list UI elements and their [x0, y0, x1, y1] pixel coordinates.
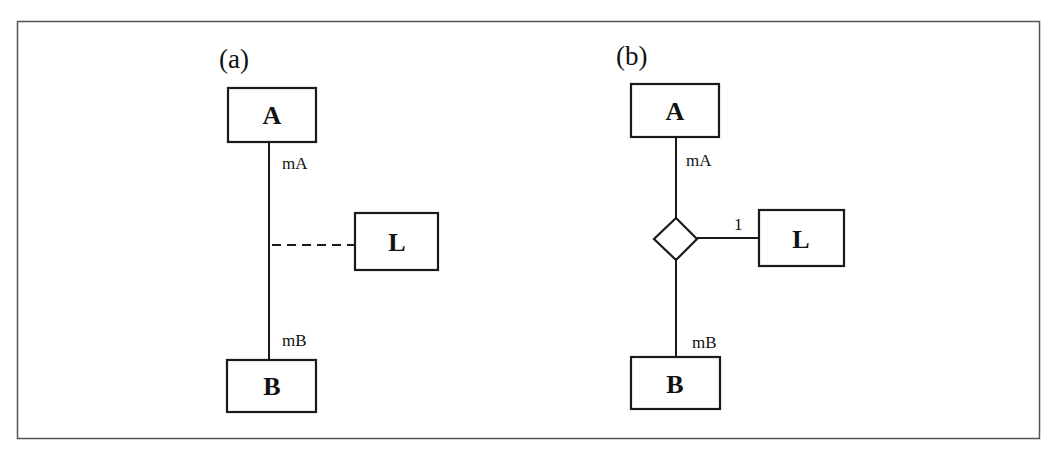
entity-a-label: A [263, 101, 282, 130]
association-diamond-icon [654, 218, 697, 260]
figure-frame [18, 22, 1040, 439]
entity-l-label: L [792, 225, 809, 254]
panel-a-label: (a) [219, 44, 249, 74]
entity-a-box: A [631, 84, 719, 137]
entity-l-label: L [388, 228, 405, 257]
entity-b-box: B [631, 357, 720, 409]
entity-b-label: B [666, 370, 683, 399]
figure-canvas: (a) A mA L mB B (b) A [0, 0, 1058, 451]
multiplicity-one: 1 [734, 215, 743, 234]
entity-b-box: B [227, 360, 316, 412]
panel-b-label: (b) [616, 41, 647, 71]
entity-a-label: A [666, 97, 685, 126]
panel-b: (b) A mA 1 L mB B [616, 41, 844, 409]
multiplicity-mb: mB [692, 333, 717, 352]
multiplicity-ma: mA [686, 151, 712, 170]
entity-b-label: B [263, 372, 280, 401]
multiplicity-mb: mB [282, 331, 307, 350]
panel-a: (a) A mA L mB B [219, 44, 438, 412]
entity-l-box: L [355, 213, 438, 270]
entity-l-box: L [759, 210, 844, 266]
multiplicity-ma: mA [282, 154, 308, 173]
entity-a-box: A [228, 88, 316, 142]
